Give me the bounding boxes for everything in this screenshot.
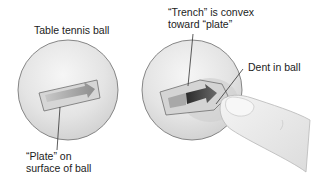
table-tennis-ball-left <box>18 40 118 150</box>
label-trench-line-2: toward “plate” <box>168 18 254 30</box>
label-dent-in-ball: Dent in ball <box>248 61 301 73</box>
label-plate-on-surface: “Plate” on surface of ball <box>26 150 91 174</box>
label-trench-line-1: “Trench” is convex <box>168 6 254 18</box>
label-trench-convex: “Trench” is convex toward “plate” <box>168 6 254 30</box>
finger-icon <box>220 95 310 172</box>
label-table-tennis-ball: Table tennis ball <box>34 24 109 36</box>
label-plate-line-1: “Plate” on <box>26 150 91 162</box>
label-plate-line-2: surface of ball <box>26 162 91 174</box>
diagram-stage: Table tennis ball “Plate” on surface of … <box>0 0 328 188</box>
